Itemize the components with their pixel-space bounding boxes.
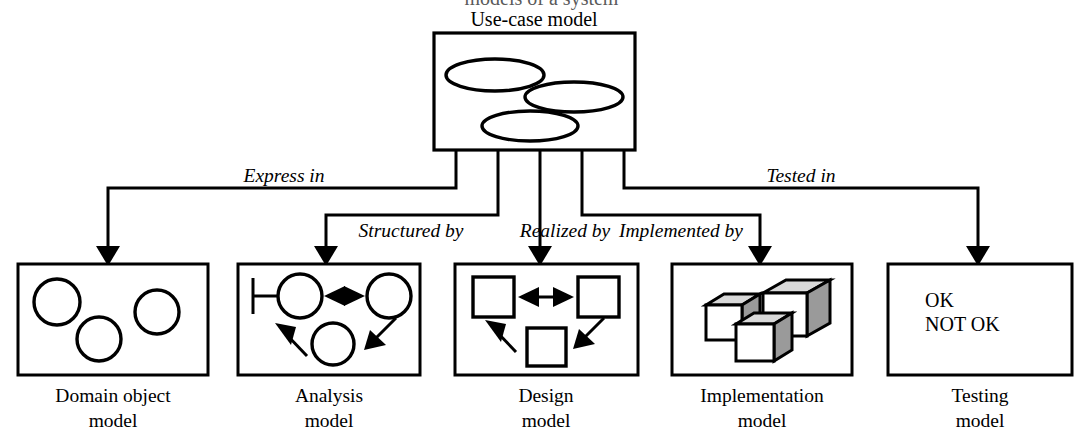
analysis-model-caption-line1: Analysis [295, 385, 363, 406]
diagram-canvas: Use-case model Express in Structured by … [0, 0, 1083, 441]
usecase-ellipse-2 [525, 82, 623, 112]
design-square-3 [527, 328, 566, 366]
design-square-1 [473, 277, 514, 317]
usecase-ellipse-3 [482, 111, 578, 141]
edge-label-tested-in: Tested in [766, 165, 835, 186]
domain-circle-1 [34, 279, 80, 325]
connector-tested-in: Tested in [624, 150, 990, 266]
diagram-root: models of a system Use-case model Expres… [0, 0, 1083, 441]
connector-realized-by: Realized by [519, 150, 611, 266]
testing-model-caption-line1: Testing [951, 385, 1008, 406]
edge-label-implemented-by: Implemented by [618, 220, 743, 241]
implementation-model-caption-line1: Implementation [700, 385, 824, 406]
analysis-model-node: Analysis model [238, 264, 420, 431]
testing-model-node: OK NOT OK Testing model [888, 264, 1072, 431]
usecase-model-node: Use-case model [434, 8, 635, 150]
design-square-2 [578, 277, 619, 317]
connector-structured-by: Structured by [314, 150, 498, 266]
testing-verdict-ok: OK [925, 289, 954, 311]
analysis-circle-3 [312, 323, 354, 365]
analysis-circle-2 [367, 274, 411, 318]
implementation-model-caption-line2: model [738, 410, 787, 431]
domain-circle-2 [135, 290, 179, 334]
domain-object-model-node: Domain object model [18, 264, 208, 431]
edge-label-realized-by: Realized by [519, 220, 611, 241]
implementation-model-node: Implementation model [672, 264, 852, 431]
analysis-model-caption-line2: model [305, 410, 354, 431]
usecase-ellipse-1 [446, 59, 544, 91]
connector-implemented-by: Implemented by [582, 150, 772, 266]
design-model-caption-line2: model [522, 410, 571, 431]
usecase-model-title: Use-case model [470, 8, 598, 30]
design-model-node: Design model [455, 264, 638, 431]
domain-object-model-caption-line1: Domain object [55, 385, 171, 406]
edge-label-express-in: Express in [242, 165, 324, 186]
connector-express-in: Express in [96, 150, 456, 266]
edge-label-structured-by: Structured by [359, 220, 464, 241]
analysis-circle-1 [278, 274, 322, 318]
testing-verdict-not-ok: NOT OK [925, 313, 1000, 335]
implementation-cube-3 [736, 313, 792, 361]
domain-circle-3 [77, 317, 121, 361]
design-model-caption-line1: Design [518, 385, 573, 406]
domain-object-model-caption-line2: model [89, 410, 138, 431]
testing-model-caption-line2: model [956, 410, 1005, 431]
